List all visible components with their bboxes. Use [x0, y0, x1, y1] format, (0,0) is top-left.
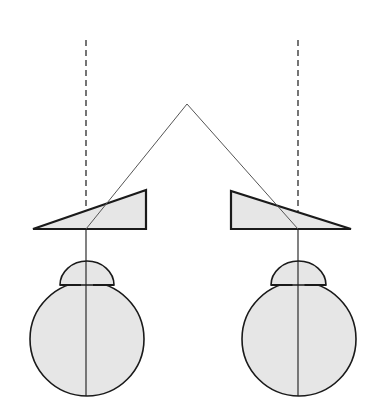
convergence-prism-diagram [0, 0, 383, 414]
left-eyeball [30, 282, 144, 396]
right-eyeball [242, 282, 356, 396]
